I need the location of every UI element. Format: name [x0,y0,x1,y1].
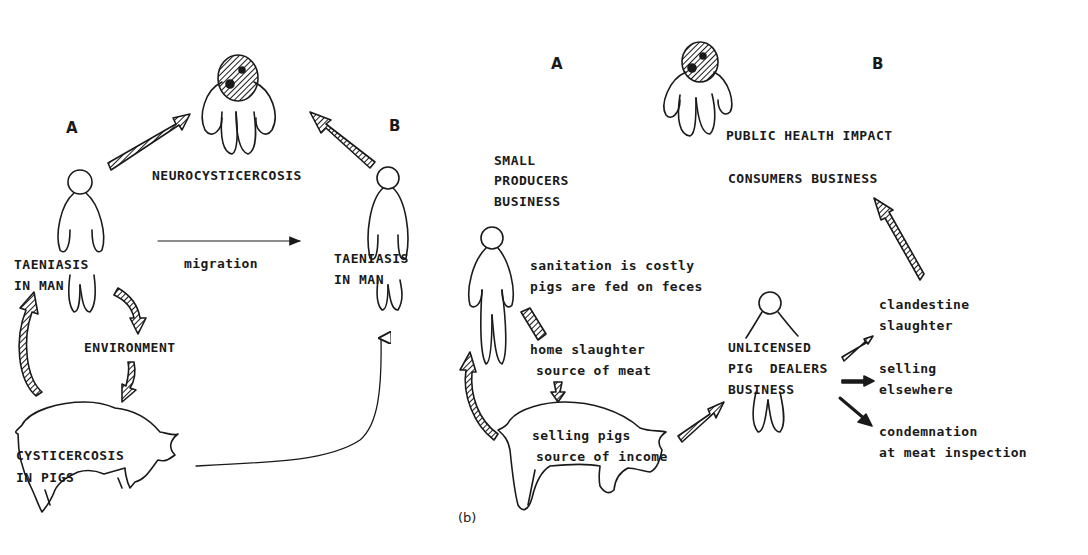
arrow-pig-to-person-b [196,338,381,466]
selling-pigs-line1: selling pigs [532,428,631,444]
arrow-sanitation-to-slaughter [521,308,546,340]
person-b-icon [368,167,408,310]
sanitation-line2: pigs are fed on feces [530,279,703,295]
taeniasis-a-label-line1: TAENIASIS [14,257,89,273]
arrow-pig-to-man [19,292,42,396]
arrow-to-clandestine [842,336,873,361]
selling-pigs-line2: source of income [536,449,668,465]
arrow-pig-to-producer [460,352,498,440]
cysticercosis-label-line2: IN PIGS [16,470,74,486]
person-a-icon [58,170,104,312]
panel-a-label-b: B [389,117,400,135]
outcome-clandestine-line1: clandestine [879,297,970,313]
dealers-line3: BUSINESS [728,382,795,398]
outcome-clandestine-line2: slaughter [879,318,953,334]
dealers-line2: PIG DEALERS [728,361,828,377]
migration-label: migration [184,256,258,272]
neurocysticercosis-label: NEUROCYSTICERCOSIS [152,168,302,184]
taeniasis-b-label-line2: IN MAN [334,272,384,288]
outcome-selling-elsewhere-line2: elsewhere [879,382,953,398]
brain-figure-icon [202,55,275,154]
arrow-to-consumers [874,198,924,280]
taeniasis-a-label-line2: IN MAN [14,278,64,294]
arrow-a-to-brain [108,114,190,170]
panel-b-caption: (b) [458,510,476,525]
home-slaughter-line2: source of meat [536,363,651,379]
outcome-condemnation-line1: condemnation [879,424,978,440]
outcome-condemnation-line2: at meat inspection [879,445,1027,461]
arrow-b-to-brain [310,112,375,168]
arrow-man-to-environment [114,288,146,334]
home-slaughter-line1: home slaughter [530,342,645,358]
consumers-business-label: CONSUMERS BUSINESS [728,171,878,187]
dealers-line1: UNLICENSED [728,340,811,356]
taeniasis-b-label-line1: TAENIASIS [334,251,409,267]
arrow-slaughter-to-pig [551,382,565,402]
brain-figure-b-icon [664,42,732,136]
environment-label: ENVIRONMENT [84,340,176,356]
diagram-canvas [0,0,1088,555]
arrow-pig-to-dealers [678,402,724,442]
small-producers-line3: BUSINESS [494,194,561,210]
public-health-impact-label: PUBLIC HEALTH IMPACT [726,128,893,144]
panel-b-label-b: B [872,55,883,73]
small-producer-person-icon [469,227,513,364]
panel-a-label-a: A [66,119,78,137]
small-producers-line1: SMALL [494,153,536,169]
outcome-selling-elsewhere-line1: selling [879,361,937,377]
small-producers-line2: PRODUCERS [494,173,569,189]
cysticercosis-label-line1: CYSTICERCOSIS [16,448,124,464]
arrow-to-condemnation [840,398,872,426]
arrow-environment-to-pig [122,362,136,402]
arrow-to-selling-elsewhere [842,376,874,386]
sanitation-line1: sanitation is costly [530,258,695,274]
panel-b-label-a: A [551,55,563,73]
